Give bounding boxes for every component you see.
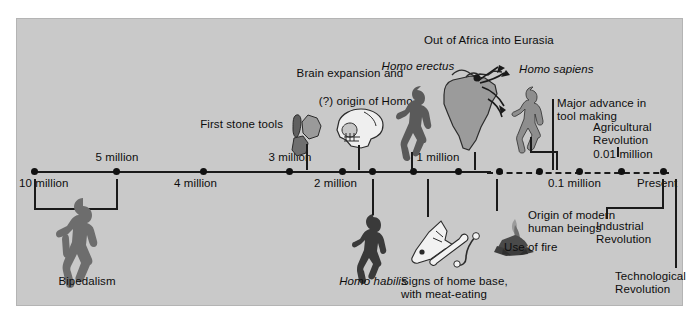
- timeline-tick: [31, 168, 38, 175]
- timeline-tick: [113, 168, 120, 175]
- skull-icon: [334, 107, 386, 149]
- timeline-tick: [286, 168, 293, 175]
- homo-habilis-leader: [372, 179, 374, 215]
- axis-label-present: Present: [637, 177, 677, 191]
- bipedalism-bracket-right: [116, 179, 118, 209]
- label-technological-line2: Revolution: [615, 283, 670, 297]
- axis-label-2-million: 2 million: [314, 177, 357, 191]
- label-out-of-africa: Out of Africa into Eurasia: [424, 34, 554, 48]
- label-signs-home-base-line1: Signs of home base,: [401, 275, 508, 289]
- stone-tools-leader: [306, 144, 308, 170]
- industrial-leader-drop: [606, 207, 608, 219]
- industrial-leader-v: [662, 179, 664, 208]
- label-agricultural-line1: Agricultural: [593, 121, 652, 135]
- label-homo-sapiens: Homo sapiens: [519, 63, 594, 77]
- timeline-tick: [200, 168, 207, 175]
- homo-sapiens-leader: [556, 151, 558, 170]
- axis-label-5-million: 5 million: [77, 151, 157, 165]
- label-technological-line1: Technological: [615, 270, 686, 284]
- bipedalism-bracket-left: [34, 179, 36, 209]
- agricultural-leader: [617, 147, 619, 157]
- brain-expansion-leader: [358, 145, 360, 170]
- origin-modern-leader: [496, 179, 498, 211]
- label-agricultural-line2: Revolution: [593, 134, 648, 148]
- animal-bones-icon: [407, 219, 481, 273]
- industrial-leader-h: [606, 207, 664, 209]
- home-base-leader: [427, 179, 429, 217]
- label-major-advance-line1: Major advance in: [557, 97, 646, 111]
- label-use-of-fire: Use of fire: [504, 241, 558, 255]
- timeline-tick: [369, 168, 376, 175]
- label-industrial-line1: Industrial: [596, 220, 644, 234]
- timeline-tick: [455, 168, 462, 175]
- axis-label-10-million: 10 million: [19, 177, 69, 191]
- label-first-stone-tools: First stone tools: [187, 118, 283, 132]
- timeline-tick: [339, 168, 346, 175]
- axis-label-01-million: 0.1 million: [548, 177, 601, 191]
- homo-sapiens-elbow-v: [530, 137, 532, 152]
- label-signs-home-base-line2: with meat-eating: [401, 288, 487, 302]
- homo-habilis-silhouette-icon: [354, 216, 392, 278]
- hominid-silhouette-icon: [52, 204, 112, 282]
- timeline-axis-solid: [33, 171, 491, 173]
- label-origin-modern-line2: human beings: [528, 222, 601, 236]
- axis-label-001-million: 0.01 million: [576, 148, 670, 162]
- figure-panel: 5 million 3 million 1 million 0.01 milli…: [16, 18, 683, 306]
- timeline-tick: [496, 168, 503, 175]
- technological-leader: [675, 179, 677, 268]
- major-advance-leader: [552, 99, 554, 170]
- brain-expansion-prefix: (?) origin of: [319, 95, 382, 107]
- out-of-africa-leader: [474, 152, 476, 170]
- timeline-tick: [536, 168, 543, 175]
- timeline-tick: [576, 168, 583, 175]
- axis-label-4-million: 4 million: [174, 177, 217, 191]
- homo-erectus-leader: [411, 152, 413, 170]
- timeline-tick: [618, 168, 625, 175]
- label-bipedalism: Bipedalism: [42, 275, 132, 289]
- evolution-timeline-figure: 5 million 3 million 1 million 0.01 milli…: [0, 0, 698, 319]
- timeline-tick: [660, 168, 667, 175]
- label-industrial-line2: Revolution: [596, 233, 651, 247]
